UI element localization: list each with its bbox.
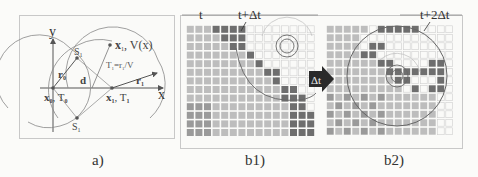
b1-circle-outer [276, 35, 298, 57]
b2-big-circle [347, 26, 447, 126]
b1-faint-arc [262, 17, 312, 36]
caption-b2: b2) [384, 152, 404, 169]
b2-circle-outer [386, 65, 408, 87]
panel-b-overlays: t t+Δt Δt t+2Δt [0, 0, 478, 177]
caption-b1: b1) [245, 152, 265, 169]
label-t: t [199, 7, 203, 22]
b1-front-arc [236, 48, 316, 100]
label-t-plus-2dt: t+2Δt [420, 7, 450, 22]
caption-a: a) [92, 152, 104, 169]
b2-faint-arc [380, 53, 420, 72]
b2-circle-inner [391, 70, 403, 82]
label-t-plus-dt: t+Δt [238, 7, 261, 22]
delta-t-arrow-label: Δt [311, 74, 321, 86]
pointer-t-plus-2dt [424, 22, 430, 31]
b1-circle-inner [280, 39, 294, 53]
pointer-t-plus-dt [241, 22, 246, 31]
